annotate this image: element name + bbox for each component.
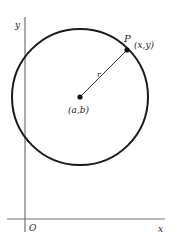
circle-diagram: y x O (a,b) r P (x,y) [0,0,176,247]
point-coord-label: (x,y) [134,40,155,50]
radius-segment [80,50,127,97]
x-axis-label: x [158,224,163,234]
point-p [124,47,129,52]
center-point [77,94,82,99]
radius-label: r [97,70,102,79]
y-axis-label: y [14,20,21,30]
point-name-label: P [123,33,131,44]
origin-label: O [29,223,37,233]
center-label: (a,b) [68,105,89,115]
